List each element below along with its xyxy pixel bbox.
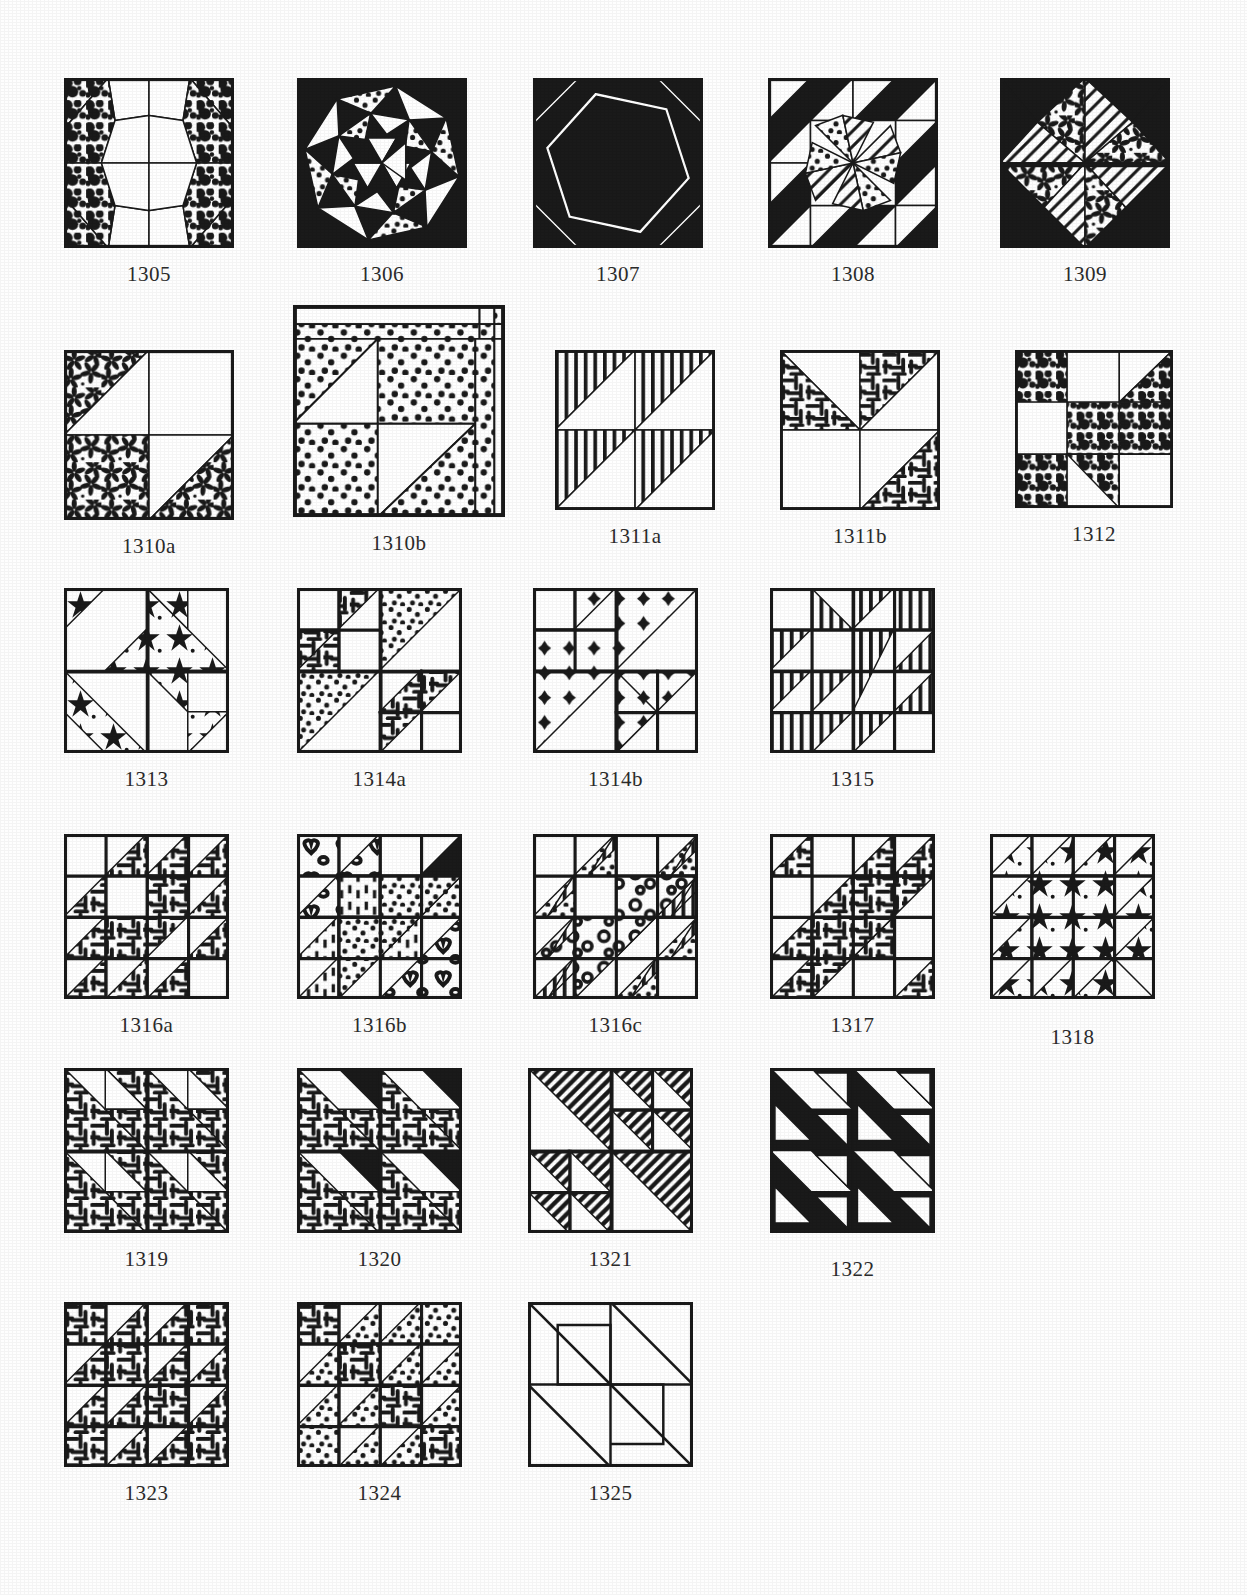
block-caption-1325: 1325 (589, 1481, 633, 1506)
block-cell-1318[interactable]: 1318 (990, 834, 1155, 999)
block-caption-1317: 1317 (831, 1013, 875, 1038)
quilt-block-1317 (770, 834, 935, 999)
block-caption-1314a: 1314a (353, 767, 407, 792)
block-cell-1305[interactable]: 1305 (64, 78, 234, 248)
block-caption-1320: 1320 (358, 1247, 402, 1272)
quilt-block-1316a (64, 834, 229, 999)
quilt-block-1311b (780, 350, 940, 510)
block-cell-1316a[interactable]: 1316a (64, 834, 229, 999)
quilt-block-1310b (293, 305, 505, 517)
quilt-block-1307 (533, 78, 703, 248)
quilt-block-1308 (768, 78, 938, 248)
block-caption-1314b: 1314b (588, 767, 643, 792)
block-cell-1314b[interactable]: 1314b (533, 588, 698, 753)
block-cell-1306[interactable]: 1306 (297, 78, 467, 248)
block-cell-1323[interactable]: 1323 (64, 1302, 229, 1467)
block-cell-1307[interactable]: 1307 (533, 78, 703, 248)
quilt-block-1321 (528, 1068, 693, 1233)
block-caption-1311a: 1311a (608, 524, 661, 549)
quilt-block-1306 (297, 78, 467, 248)
block-caption-1306: 1306 (360, 262, 404, 287)
block-caption-1308: 1308 (831, 262, 875, 287)
block-caption-1307: 1307 (596, 262, 640, 287)
quilt-block-1310a (64, 350, 234, 520)
block-cell-1308[interactable]: 1308 (768, 78, 938, 248)
block-cell-1316c[interactable]: 1316c (533, 834, 698, 999)
block-cell-1313[interactable]: 1313 (64, 588, 229, 753)
plate-sheet: 130513061307130813091310a1310b1311a1311b… (0, 0, 1247, 1595)
quilt-block-1318 (990, 834, 1155, 999)
quilt-block-1316b (297, 834, 462, 999)
block-caption-1312: 1312 (1072, 522, 1116, 547)
block-cell-1316b[interactable]: 1316b (297, 834, 462, 999)
quilt-block-1314a (297, 588, 462, 753)
quilt-block-1314b (533, 588, 698, 753)
block-caption-1316b: 1316b (352, 1013, 407, 1038)
quilt-block-1315 (770, 588, 935, 753)
block-caption-1324: 1324 (358, 1481, 402, 1506)
quilt-block-1312 (1015, 350, 1173, 508)
block-cell-1317[interactable]: 1317 (770, 834, 935, 999)
quilt-block-1309 (1000, 78, 1170, 248)
block-cell-1310b[interactable]: 1310b (293, 305, 505, 517)
block-cell-1324[interactable]: 1324 (297, 1302, 462, 1467)
block-caption-1321: 1321 (589, 1247, 633, 1272)
block-caption-1313: 1313 (125, 767, 169, 792)
block-caption-1310a: 1310a (122, 534, 176, 559)
block-cell-1310a[interactable]: 1310a (64, 350, 234, 520)
quilt-block-1324 (297, 1302, 462, 1467)
block-cell-1320[interactable]: 1320 (297, 1068, 462, 1233)
block-cell-1319[interactable]: 1319 (64, 1068, 229, 1233)
block-caption-1305: 1305 (127, 262, 171, 287)
block-caption-1309: 1309 (1063, 262, 1107, 287)
block-caption-1310b: 1310b (372, 531, 427, 556)
block-cell-1325[interactable]: 1325 (528, 1302, 693, 1467)
block-cell-1309[interactable]: 1309 (1000, 78, 1170, 248)
quilt-block-1305 (64, 78, 234, 248)
block-caption-1322: 1322 (831, 1257, 875, 1282)
block-caption-1319: 1319 (125, 1247, 169, 1272)
quilt-block-1313 (64, 588, 229, 753)
quilt-block-1323 (64, 1302, 229, 1467)
block-caption-1316c: 1316c (589, 1013, 643, 1038)
quilt-block-1322 (770, 1068, 935, 1233)
block-cell-1321[interactable]: 1321 (528, 1068, 693, 1233)
block-caption-1315: 1315 (831, 767, 875, 792)
quilt-block-1320 (297, 1068, 462, 1233)
block-cell-1311a[interactable]: 1311a (555, 350, 715, 510)
block-cell-1312[interactable]: 1312 (1015, 350, 1173, 508)
block-cell-1315[interactable]: 1315 (770, 588, 935, 753)
block-caption-1318: 1318 (1051, 1025, 1095, 1050)
quilt-block-1325 (528, 1302, 693, 1467)
quilt-block-1311a (555, 350, 715, 510)
block-cell-1314a[interactable]: 1314a (297, 588, 462, 753)
block-cell-1322[interactable]: 1322 (770, 1068, 935, 1233)
block-caption-1311b: 1311b (833, 524, 887, 549)
block-caption-1323: 1323 (125, 1481, 169, 1506)
block-cell-1311b[interactable]: 1311b (780, 350, 940, 510)
quilt-block-1319 (64, 1068, 229, 1233)
block-caption-1316a: 1316a (120, 1013, 174, 1038)
quilt-block-1316c (533, 834, 698, 999)
